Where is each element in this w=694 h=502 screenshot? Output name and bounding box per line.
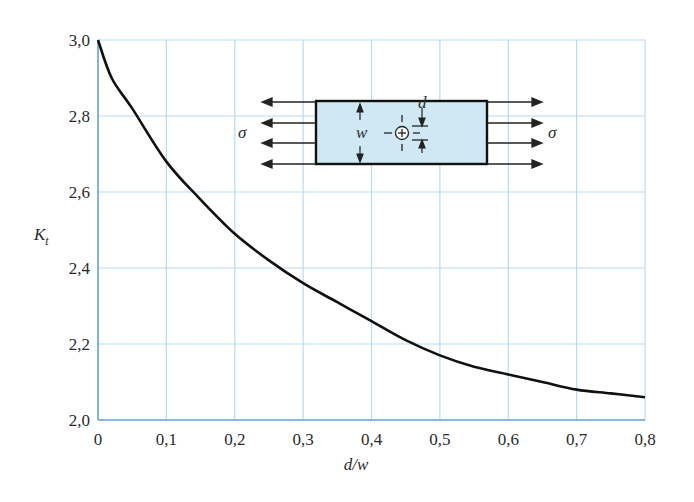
arrows-right <box>487 98 542 168</box>
x-tick-label: 0 <box>94 430 103 449</box>
x-tick-label: 0,1 <box>156 430 177 449</box>
x-axis-label: d/w <box>344 455 369 474</box>
inset-diagram: σ σ w d <box>238 93 557 168</box>
y-tick-label: 2,4 <box>69 259 91 278</box>
y-tick-label: 2,2 <box>69 335 90 354</box>
y-tick-label: 2,0 <box>69 411 90 430</box>
x-tick-label: 0,5 <box>429 430 450 449</box>
y-tick-labels: 2,02,22,42,62,83,0 <box>69 31 91 430</box>
grid <box>98 40 645 420</box>
x-tick-label: 0,7 <box>566 430 588 449</box>
chart: 00,10,20,30,40,50,60,70,8 2,02,22,42,62,… <box>0 0 694 502</box>
y-tick-label: 2,8 <box>69 107 90 126</box>
hole-label: d <box>418 93 427 112</box>
x-tick-label: 0,3 <box>293 430 314 449</box>
x-tick-label: 0,4 <box>361 430 383 449</box>
sigma-right-label: σ <box>548 123 557 142</box>
x-tick-label: 0,2 <box>224 430 245 449</box>
sigma-left-label: σ <box>238 123 247 142</box>
x-tick-label: 0,8 <box>634 430 655 449</box>
y-tick-label: 3,0 <box>69 31 90 50</box>
y-axis-label: Kt <box>33 225 49 248</box>
arrows-left <box>262 98 316 168</box>
x-tick-labels: 00,10,20,30,40,50,60,70,8 <box>94 430 656 449</box>
y-tick-label: 2,6 <box>69 183 90 202</box>
x-tick-label: 0,6 <box>498 430 519 449</box>
width-label: w <box>356 123 368 142</box>
